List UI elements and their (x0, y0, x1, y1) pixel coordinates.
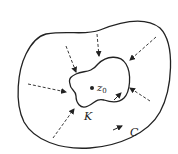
point-z0 (90, 86, 94, 90)
arrow-lower-left (53, 109, 74, 138)
arrow-upper-right (130, 37, 156, 60)
k-label: K (83, 110, 93, 123)
contour-diagram: z0 K C (0, 0, 178, 154)
arrow-top (97, 34, 99, 56)
arrow-right (130, 88, 150, 101)
outer-contour-direction-arrow (113, 126, 122, 130)
arrow-left (28, 84, 66, 92)
inner-contour-direction-arrow (114, 93, 121, 100)
outer-contour-c (18, 21, 170, 148)
c-label: C (130, 126, 139, 139)
arrow-upper-left (66, 46, 76, 72)
z0-label: z0 (96, 82, 107, 95)
